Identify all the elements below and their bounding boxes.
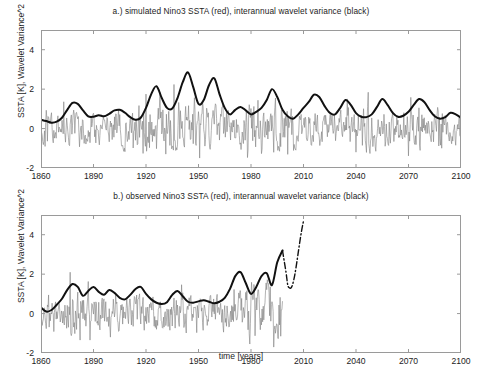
xtick-label: 1950: [189, 171, 208, 181]
xtick-label: 2010: [294, 171, 313, 181]
panel-b-plot-svg: [41, 215, 461, 353]
panel-b-title: b.) observed Nino3 SSTA (red), interannu…: [0, 191, 482, 201]
panel-b: b.) observed Nino3 SSTA (red), interannu…: [0, 185, 482, 375]
panel-a-title: a.) simulated Nino3 SSTA (red), interann…: [0, 6, 482, 16]
panel-a-ylabel: SSTA [K], Wavelet Variance^2: [16, 0, 26, 136]
ytick-label: 0: [0, 309, 34, 319]
panel-b-plot-area: [41, 215, 461, 353]
xtick-label: 1980: [241, 171, 260, 181]
xtick-label: 2040: [346, 171, 365, 181]
xtick-label: 1860: [31, 171, 50, 181]
ytick-label: 4: [0, 230, 34, 240]
ytick-label: 2: [0, 84, 34, 94]
panel-b-xlabel: time [years]: [0, 351, 482, 361]
xtick-label: 1890: [84, 171, 103, 181]
ytick-label: 4: [0, 45, 34, 55]
panel-a-plot-area: [41, 30, 461, 168]
ytick-label: 0: [0, 124, 34, 134]
xtick-label: 2100: [451, 171, 470, 181]
figure-root: a.) simulated Nino3 SSTA (red), interann…: [0, 0, 482, 375]
panel-a-plot-svg: [41, 30, 461, 168]
ytick-label: 2: [0, 269, 34, 279]
panel-b-ylabel: SSTA [K], Wavelet Variance^2: [16, 171, 26, 321]
xtick-label: 2070: [399, 171, 418, 181]
panel-a: a.) simulated Nino3 SSTA (red), interann…: [0, 0, 482, 190]
xtick-label: 1920: [136, 171, 155, 181]
